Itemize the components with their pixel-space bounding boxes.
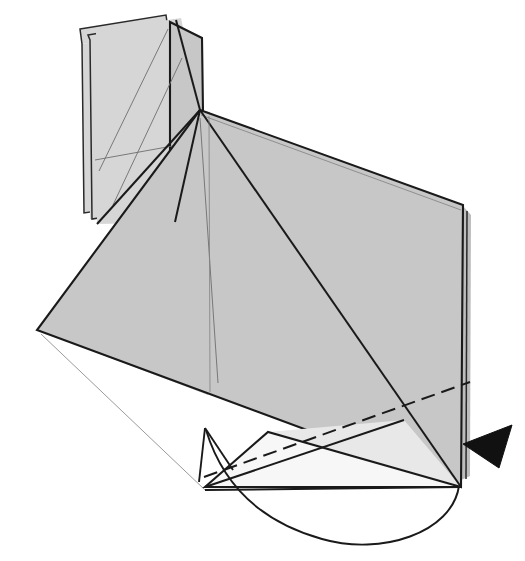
origami-figure-root: Origami folding step diagram Line-art pe… xyxy=(0,0,525,561)
right-edge-thickness-line xyxy=(466,211,467,479)
origami-diagram-svg: Origami folding step diagram Line-art pe… xyxy=(0,0,525,561)
